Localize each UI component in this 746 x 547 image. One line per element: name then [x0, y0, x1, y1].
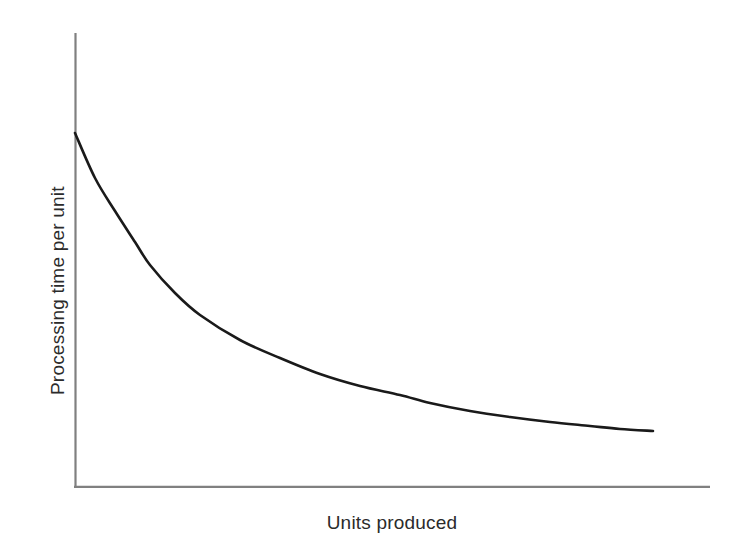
chart-plot-canvas [0, 0, 746, 547]
y-axis-label: Processing time per unit [47, 186, 69, 395]
x-axis-label: Units produced [327, 512, 458, 534]
chart-figure: Processing time per unit Units produced [0, 0, 746, 547]
learning-curve-line [75, 133, 653, 431]
x-axis-label-container: Units produced [0, 512, 746, 534]
